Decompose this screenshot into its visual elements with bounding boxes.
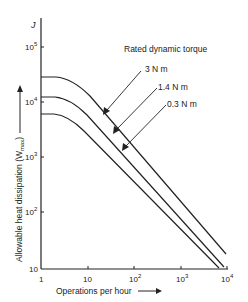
y-tick-label: 102	[25, 206, 38, 217]
y-axis-label: Allowable heat dissipation (Wmax)	[14, 137, 25, 262]
x-tick-label: 104	[221, 273, 234, 284]
legend-0-3nm: 0.3 N m	[167, 99, 197, 109]
leader-line-0-3nm	[126, 105, 166, 146]
x-direction-arrow-icon	[138, 288, 162, 294]
y-tick-label: 104	[25, 96, 38, 107]
curve-1-4nm	[41, 97, 224, 267]
y-tick-label: 103	[25, 151, 38, 162]
leader-line-3nm	[107, 71, 141, 110]
legend-3nm: 3 N m	[145, 64, 168, 74]
x-tick-label: 102	[129, 273, 142, 284]
curve-3nm	[41, 77, 226, 254]
x-tick-label: 10	[83, 275, 92, 284]
y-tick-label: 105	[25, 41, 38, 52]
x-tick-label: 103	[176, 273, 189, 284]
legend-1-4nm: 1.4 N m	[158, 82, 188, 92]
y-direction-arrow-icon	[17, 85, 23, 133]
legend-title: Rated dynamic torque	[124, 44, 207, 54]
x-axis-label: Operations per hour	[56, 286, 132, 296]
x-tick-label: 1	[39, 275, 44, 284]
leader-line-1-4nm	[117, 88, 157, 129]
y-unit-label: J	[30, 20, 36, 30]
y-tick-label: 10	[29, 265, 38, 274]
curve-0-3nm	[41, 114, 219, 268]
heat-dissipation-chart: J 105 104 103 102 10 1 10 102 103 104 Op…	[0, 0, 248, 302]
